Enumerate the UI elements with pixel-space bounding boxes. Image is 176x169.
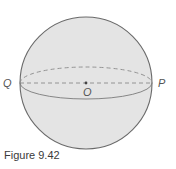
center-point-dot <box>85 82 88 85</box>
sphere-diagram: Q P O <box>0 0 176 169</box>
label-q: Q <box>3 77 12 89</box>
label-p: P <box>158 77 166 89</box>
figure-caption: Figure 9.42 <box>4 149 60 161</box>
label-o: O <box>83 86 92 98</box>
